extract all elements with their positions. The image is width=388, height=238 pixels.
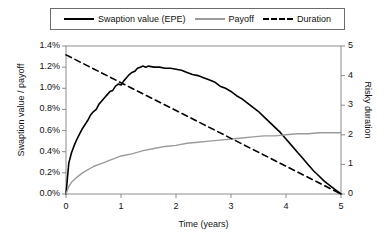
y-tick-label-right: 5 (348, 40, 368, 50)
y-tick-label-right: 4 (348, 70, 368, 80)
y-tick-label-right: 0 (348, 188, 368, 198)
y-tick-label-left: 0.2% (24, 167, 60, 177)
x-tick-label: 0 (56, 201, 76, 211)
x-tick-label: 5 (331, 201, 351, 211)
y-tick-label-left: 1.0% (24, 82, 60, 92)
y-tick-label-left: 0.4% (24, 146, 60, 156)
series-line (66, 133, 341, 194)
series-line (66, 55, 341, 194)
y-tick-label-left: 0.6% (24, 125, 60, 135)
x-tick-label: 1 (111, 201, 131, 211)
chart-figure: Swaption value (EPE) Payoff Duration Swa… (0, 0, 388, 238)
y-tick-label-right: 1 (348, 158, 368, 168)
y-tick-label-left: 0.0% (24, 188, 60, 198)
y-tick-label-left: 1.2% (24, 61, 60, 71)
series-line (66, 66, 341, 194)
y-tick-label-right: 3 (348, 99, 368, 109)
y-tick-label-left: 1.4% (24, 40, 60, 50)
plot-frame (66, 46, 341, 194)
x-tick-label: 4 (276, 201, 296, 211)
y-tick-label-left: 0.8% (24, 103, 60, 113)
y-tick-label-right: 2 (348, 129, 368, 139)
x-tick-label: 3 (221, 201, 241, 211)
x-tick-label: 2 (166, 201, 186, 211)
